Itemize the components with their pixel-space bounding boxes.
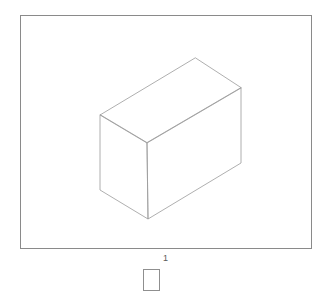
cuboid-right-face: [147, 88, 241, 219]
isometric-cuboid: [100, 58, 241, 219]
page-thumbnail[interactable]: [143, 269, 160, 291]
cuboid-left-face: [100, 115, 148, 219]
page-number-label: 1: [0, 253, 331, 264]
